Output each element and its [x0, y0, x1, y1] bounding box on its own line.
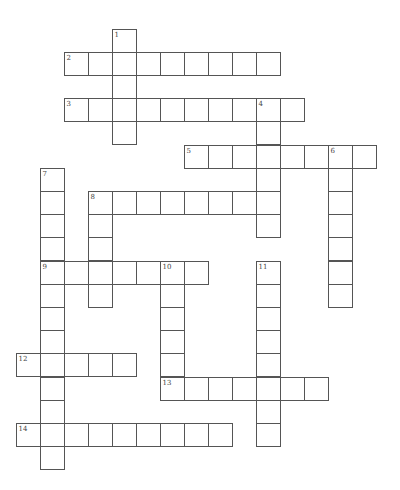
crossword-cell[interactable]	[328, 168, 353, 192]
crossword-cell[interactable]	[232, 145, 257, 169]
crossword-cell[interactable]	[208, 377, 233, 401]
crossword-cell[interactable]	[184, 52, 209, 76]
crossword-cell[interactable]	[40, 191, 65, 215]
crossword-cell[interactable]	[256, 330, 281, 354]
crossword-cell[interactable]	[88, 98, 113, 122]
crossword-cell[interactable]	[184, 377, 209, 401]
crossword-cell[interactable]	[112, 261, 137, 285]
crossword-cell[interactable]	[40, 400, 65, 424]
crossword-cell[interactable]	[112, 75, 137, 99]
crossword-cell[interactable]	[256, 400, 281, 424]
crossword-cell[interactable]	[184, 98, 209, 122]
crossword-cell[interactable]	[256, 52, 281, 76]
crossword-cell[interactable]	[328, 191, 353, 215]
crossword-cell[interactable]	[160, 98, 185, 122]
crossword-cell[interactable]	[112, 98, 137, 122]
crossword-cell[interactable]: 5	[184, 145, 209, 169]
crossword-cell[interactable]	[88, 52, 113, 76]
crossword-cell[interactable]	[40, 353, 65, 377]
crossword-cell[interactable]	[64, 423, 89, 447]
crossword-cell[interactable]	[112, 423, 137, 447]
crossword-cell[interactable]	[328, 261, 353, 285]
crossword-cell[interactable]	[64, 261, 89, 285]
crossword-cell[interactable]	[232, 377, 257, 401]
crossword-cell[interactable]	[136, 261, 161, 285]
crossword-cell[interactable]	[184, 261, 209, 285]
crossword-cell[interactable]: 4	[256, 98, 281, 122]
crossword-cell[interactable]	[160, 284, 185, 308]
crossword-cell[interactable]	[352, 145, 377, 169]
crossword-cell[interactable]	[40, 307, 65, 331]
crossword-cell[interactable]	[160, 191, 185, 215]
crossword-cell[interactable]: 1	[112, 29, 137, 53]
crossword-cell[interactable]	[280, 98, 305, 122]
crossword-cell[interactable]	[256, 423, 281, 447]
crossword-cell[interactable]	[256, 168, 281, 192]
crossword-cell[interactable]	[88, 237, 113, 261]
crossword-cell[interactable]	[88, 284, 113, 308]
crossword-cell[interactable]: 13	[160, 377, 185, 401]
crossword-cell[interactable]	[232, 191, 257, 215]
crossword-cell[interactable]	[40, 377, 65, 401]
crossword-cell[interactable]	[184, 423, 209, 447]
crossword-cell[interactable]	[256, 121, 281, 145]
crossword-cell[interactable]	[160, 423, 185, 447]
crossword-cell[interactable]	[232, 98, 257, 122]
crossword-cell[interactable]	[280, 377, 305, 401]
crossword-cell[interactable]: 14	[16, 423, 41, 447]
crossword-cell[interactable]	[88, 423, 113, 447]
crossword-cell[interactable]	[304, 145, 329, 169]
crossword-cell[interactable]	[40, 284, 65, 308]
crossword-cell[interactable]	[256, 145, 281, 169]
crossword-cell[interactable]	[160, 353, 185, 377]
crossword-cell[interactable]	[184, 191, 209, 215]
crossword-cell[interactable]	[88, 353, 113, 377]
crossword-cell[interactable]	[160, 52, 185, 76]
crossword-cell[interactable]	[160, 330, 185, 354]
crossword-cell[interactable]	[256, 353, 281, 377]
crossword-cell[interactable]	[88, 261, 113, 285]
crossword-cell[interactable]: 3	[64, 98, 89, 122]
crossword-cell[interactable]	[136, 98, 161, 122]
crossword-cell[interactable]	[40, 214, 65, 238]
crossword-cell[interactable]: 6	[328, 145, 353, 169]
crossword-cell[interactable]	[40, 330, 65, 354]
crossword-cell[interactable]	[256, 284, 281, 308]
crossword-cell[interactable]	[208, 98, 233, 122]
crossword-cell[interactable]	[40, 237, 65, 261]
crossword-cell[interactable]	[112, 191, 137, 215]
crossword-cell[interactable]	[328, 284, 353, 308]
crossword-cell[interactable]	[256, 377, 281, 401]
crossword-cell[interactable]	[160, 307, 185, 331]
crossword-cell[interactable]: 12	[16, 353, 41, 377]
crossword-cell[interactable]: 9	[40, 261, 65, 285]
crossword-cell[interactable]: 8	[88, 191, 113, 215]
crossword-cell[interactable]	[256, 214, 281, 238]
crossword-cell[interactable]	[256, 307, 281, 331]
crossword-cell[interactable]	[88, 214, 113, 238]
crossword-cell[interactable]	[304, 377, 329, 401]
crossword-cell[interactable]	[208, 191, 233, 215]
crossword-cell[interactable]	[256, 191, 281, 215]
crossword-cell[interactable]: 2	[64, 52, 89, 76]
crossword-cell[interactable]	[40, 423, 65, 447]
crossword-cell[interactable]	[208, 145, 233, 169]
crossword-cell[interactable]	[328, 214, 353, 238]
clue-number: 4	[259, 100, 263, 108]
crossword-cell[interactable]	[136, 191, 161, 215]
crossword-cell[interactable]: 10	[160, 261, 185, 285]
crossword-cell[interactable]	[208, 423, 233, 447]
crossword-cell[interactable]	[112, 353, 137, 377]
crossword-cell[interactable]	[280, 145, 305, 169]
crossword-cell[interactable]	[112, 52, 137, 76]
crossword-cell[interactable]: 11	[256, 261, 281, 285]
crossword-cell[interactable]	[328, 237, 353, 261]
crossword-cell[interactable]	[112, 121, 137, 145]
crossword-cell[interactable]	[232, 52, 257, 76]
crossword-cell[interactable]	[64, 353, 89, 377]
crossword-cell[interactable]	[40, 446, 65, 470]
crossword-cell[interactable]: 7	[40, 168, 65, 192]
crossword-cell[interactable]	[208, 52, 233, 76]
crossword-cell[interactable]	[136, 52, 161, 76]
crossword-cell[interactable]	[136, 423, 161, 447]
